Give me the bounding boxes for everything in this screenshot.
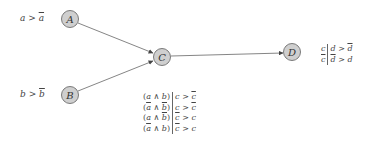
node-c[interactable]: C xyxy=(153,48,171,66)
edge-c-to-d xyxy=(171,53,283,56)
cpt-c-row: (a ∧ b) c > c xyxy=(143,113,196,124)
edge-b-to-c xyxy=(78,61,153,91)
cpt-c-row: (a ∧ b) c > c xyxy=(143,92,196,103)
edge-a-to-c xyxy=(78,23,153,53)
cpt-d-row: c d > d xyxy=(321,44,353,55)
cpt-c-row: (a ∧ b) c > c xyxy=(143,124,196,135)
cpt-table-d: c d > d c d > d xyxy=(321,44,353,65)
cpt-table-c: (a ∧ b) c > c (a ∧ b) c > c (a ∧ b) c > … xyxy=(143,92,196,134)
node-b-ordering-label: b > b xyxy=(20,89,45,99)
node-d[interactable]: D xyxy=(283,43,301,61)
cpt-c-row: (a ∧ b) c > c xyxy=(143,103,196,114)
node-b[interactable]: B xyxy=(61,86,79,104)
node-a-ordering-label: a > a xyxy=(20,13,44,23)
cpt-d-row: c d > d xyxy=(321,55,353,66)
node-a[interactable]: A xyxy=(61,10,79,28)
